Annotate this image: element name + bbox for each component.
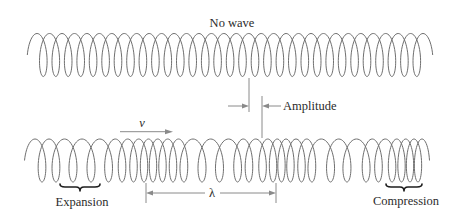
expansion-marker: Expansion <box>56 184 110 209</box>
arrowhead-right-icon <box>269 191 276 196</box>
spring-coil-longitudinal-wave <box>25 139 430 182</box>
expansion-label: Expansion <box>56 195 110 209</box>
compression-label: Compression <box>373 194 440 208</box>
longitudinal-wave-diagram: No wave Amplitude v Expansion λ Compress… <box>0 0 459 217</box>
no-wave-label: No wave <box>210 16 255 30</box>
arrowhead-right-icon <box>242 104 249 109</box>
wavelength-indicator: λ <box>146 183 276 203</box>
brace-icon <box>386 184 422 191</box>
amplitude-label: Amplitude <box>283 99 337 113</box>
wavelength-label: λ <box>209 186 215 200</box>
arrowhead-left-icon <box>262 104 269 109</box>
spring-coil-no-wave <box>27 34 432 77</box>
amplitude-indicator: Amplitude <box>228 78 337 138</box>
velocity-label: v <box>139 116 145 130</box>
arrowhead-right-icon <box>165 129 173 134</box>
velocity-indicator: v <box>120 116 173 134</box>
compression-marker: Compression <box>373 184 440 208</box>
arrowhead-left-icon <box>146 191 153 196</box>
brace-icon <box>60 184 100 191</box>
